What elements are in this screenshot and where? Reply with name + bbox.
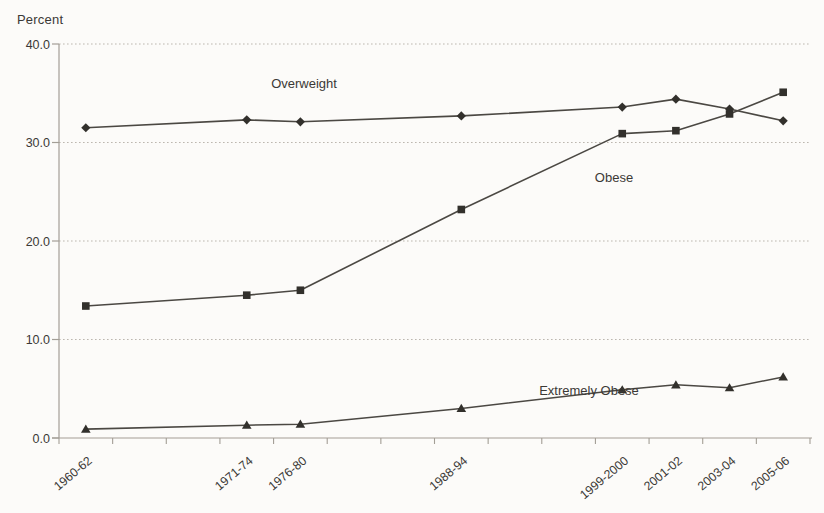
overweight-marker-1960-62 [81, 123, 90, 132]
x-tick-label-1999-2000: 1999-2000 [577, 453, 631, 502]
obese-marker-1988-94 [458, 206, 466, 214]
y-tick-label-40.0: 40.0 [26, 38, 50, 52]
overweight-line [86, 99, 783, 128]
obese-marker-2001-02 [672, 127, 680, 135]
obese-marker-1960-62 [82, 302, 90, 310]
x-tick-label-1960-62: 1960-62 [51, 453, 95, 493]
overweight-marker-2005-06 [779, 116, 788, 125]
x-tick-label-2005-06: 2005-06 [749, 453, 793, 493]
obese-marker-1999-2000 [618, 130, 626, 138]
obese-marker-2003-04 [726, 110, 734, 118]
obese-line [86, 92, 783, 306]
extremely-obese-line [86, 377, 783, 429]
series-label-obese: Obese [595, 170, 633, 185]
x-tick-label-2001-02: 2001-02 [641, 453, 685, 493]
obese-marker-1976-80 [297, 286, 305, 294]
overweight-marker-1999-2000 [618, 102, 627, 111]
chart-page: Percent 0.010.020.030.040.0OverweightObe… [0, 0, 824, 513]
x-tick-label-1976-80: 1976-80 [266, 453, 310, 493]
chart-canvas: 0.010.020.030.040.0OverweightObeseExtrem… [0, 0, 824, 513]
series-label-extremely-obese: Extremely Obese [539, 383, 639, 398]
obese-marker-1971-74 [243, 291, 251, 299]
overweight-marker-1988-94 [457, 111, 466, 120]
extremely-obese-marker-2005-06 [778, 372, 788, 380]
y-tick-label-30.0: 30.0 [26, 136, 50, 150]
x-tick-label-1971-74: 1971-74 [212, 453, 256, 493]
x-tick-label-1988-94: 1988-94 [427, 453, 471, 493]
overweight-marker-1976-80 [296, 117, 305, 126]
overweight-marker-1971-74 [242, 115, 251, 124]
obese-marker-2005-06 [779, 88, 787, 96]
y-tick-label-20.0: 20.0 [26, 235, 50, 249]
series-label-overweight: Overweight [271, 76, 337, 91]
y-tick-label-10.0: 10.0 [26, 333, 50, 347]
overweight-marker-2001-02 [671, 95, 680, 104]
x-tick-label-2003-04: 2003-04 [695, 453, 739, 493]
y-tick-label-0.0: 0.0 [33, 432, 50, 446]
